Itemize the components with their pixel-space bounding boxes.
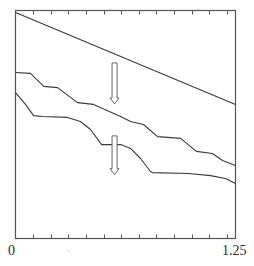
series-middle-staircase <box>16 73 236 166</box>
x-axis-ticks <box>34 11 228 239</box>
annotation-arrows <box>110 63 119 175</box>
plot-frame <box>16 11 236 239</box>
x-tick-label-max: 1.25 <box>222 244 247 258</box>
down-arrow-icon <box>110 63 119 104</box>
plot-border <box>16 11 236 239</box>
series-bottom-staircase <box>16 93 236 184</box>
series-top-linear <box>16 13 236 105</box>
x-tick-label-min: 0 <box>8 244 15 258</box>
down-arrow-icon <box>110 136 119 175</box>
speck-artifact <box>69 251 70 252</box>
data-series <box>16 13 236 184</box>
staircase-line-chart <box>0 0 254 266</box>
